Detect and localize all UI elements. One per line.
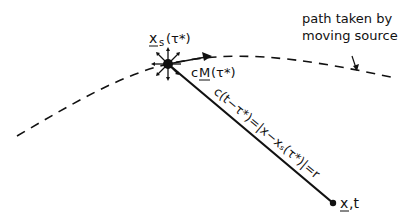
velocity-label-c: c: [191, 65, 198, 80]
source-label: x s (τ*): [149, 30, 190, 48]
observer-point: [330, 200, 336, 206]
radiation-line: [168, 64, 333, 203]
velocity-arrowhead-icon: [202, 52, 212, 61]
observer-label: x ,t: [340, 195, 359, 211]
source-label-sub: s: [159, 37, 164, 48]
velocity-label: c M (τ*): [191, 65, 235, 80]
source-label-arg: (τ*): [166, 31, 190, 46]
source-label-x: x: [149, 30, 157, 46]
distance-equation: c(t−τ*)=|x−xₛ(τ*)|=r: [211, 84, 324, 182]
observer-label-x: x: [340, 195, 348, 211]
observer-label-rest: ,t: [349, 195, 359, 211]
diagram-svg: path taken by moving source x s (τ*) c M…: [0, 0, 411, 217]
annotation-line1: path taken by: [302, 11, 392, 26]
velocity-label-M: M: [199, 65, 210, 80]
diagram-canvas: path taken by moving source x s (τ*) c M…: [0, 0, 411, 217]
annotation-line2: moving source: [302, 28, 398, 43]
velocity-label-arg: (τ*): [211, 65, 235, 80]
